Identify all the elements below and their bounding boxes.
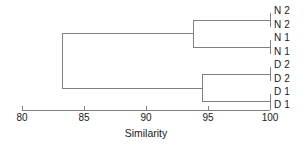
leaf-label-row-7: D 1 — [274, 100, 290, 110]
leaf-label-row-0: N 2 — [274, 6, 290, 16]
dendrogram-figure: N 2 N 2 N 1 N 1 D 2 D 2 D 1 D 1 80 85 90… — [0, 0, 307, 144]
x-tick-label-95: 95 — [196, 113, 220, 123]
leaf-label-row-6: D 1 — [274, 87, 290, 97]
dendrogram-links — [62, 13, 270, 107]
x-tick-label-85: 85 — [72, 113, 96, 123]
leaf-label-row-1: N 2 — [274, 20, 290, 30]
x-tick-label-80: 80 — [10, 113, 34, 123]
leaf-label-row-2: N 1 — [274, 33, 290, 43]
x-axis-title: Similarity — [96, 128, 196, 139]
x-tick-label-90: 90 — [134, 113, 158, 123]
x-axis — [22, 106, 270, 110]
x-tick-label-100: 100 — [256, 113, 284, 123]
leaf-label-row-3: N 1 — [274, 47, 290, 57]
leaf-label-row-4: D 2 — [274, 60, 290, 70]
leaf-label-row-5: D 2 — [274, 74, 290, 84]
